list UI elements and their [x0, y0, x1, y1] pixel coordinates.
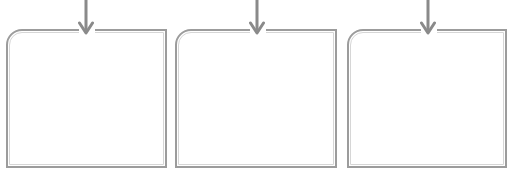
down-arrow-icon [249, 0, 265, 36]
down-arrow-icon [420, 0, 436, 36]
panel-3 [347, 29, 507, 168]
panel-2 [175, 29, 337, 168]
panel-1 [6, 29, 167, 168]
down-arrow-icon [78, 0, 94, 36]
